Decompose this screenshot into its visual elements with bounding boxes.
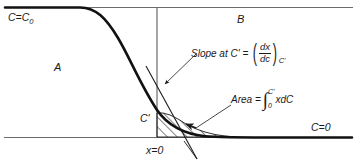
label-region-b: B (237, 14, 244, 25)
area-leader-line (196, 105, 231, 128)
label-bottom-concentration: C=0 (311, 122, 331, 133)
label-c-prime: C' (140, 113, 150, 124)
label-bottom-concentration-text: C=0 (311, 121, 331, 133)
annotation-slope: Slope at C' = ( dx dc ) C' (191, 42, 285, 65)
left-paren-glyph: ( (253, 42, 257, 65)
slope-subscript: C' (279, 57, 286, 66)
label-top-concentration-text: C=C (8, 11, 29, 23)
label-top-concentration: C=C0 (8, 12, 33, 26)
slope-numerator: dx (259, 42, 271, 53)
slope-fraction: dx dc (259, 42, 271, 65)
integral-upper-limit: C' (268, 88, 274, 95)
integral-expression: ∫ C' 0 xdC (263, 92, 293, 108)
diagram-canvas: C=C0 A B C=0 x=0 C' Slope at C' = ( dx d… (0, 0, 357, 165)
integral-limits: C' 0 (268, 92, 274, 107)
annotation-area: Area = ∫ C' 0 xdC (231, 92, 293, 108)
label-origin-text: x=0 (146, 144, 163, 156)
slope-denominator: dc (259, 53, 271, 65)
integral-lower-limit: 0 (268, 102, 274, 109)
label-region-a: A (54, 62, 61, 73)
label-origin: x=0 (146, 145, 163, 156)
integrand-expression: xdC (275, 95, 293, 105)
label-top-concentration-subscript: 0 (29, 17, 33, 26)
right-paren-glyph: ) (273, 42, 277, 65)
tangent-tail-line (184, 141, 197, 159)
annotation-slope-text: Slope at C' = (191, 49, 248, 59)
diagram-svg (0, 0, 357, 165)
annotation-area-text: Area = (231, 95, 261, 105)
